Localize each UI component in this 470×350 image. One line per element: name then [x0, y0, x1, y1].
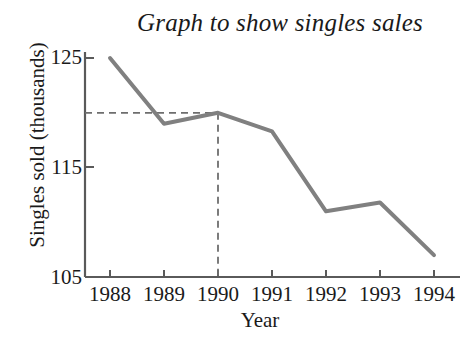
plot-area [0, 0, 470, 350]
chart-page: Graph to show singles sales Singles sold… [0, 0, 470, 350]
data-series-singles-sold [110, 58, 434, 255]
